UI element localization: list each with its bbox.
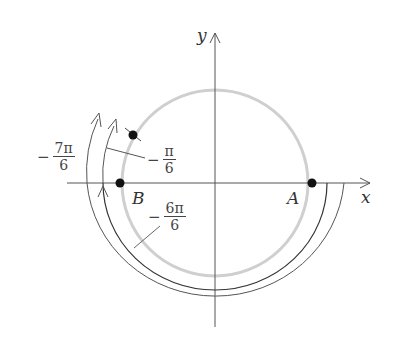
numerator: π (163, 143, 176, 160)
numerator: 7π (53, 140, 75, 157)
label-neg-6pi-6: − 6π 6 (148, 200, 186, 233)
y-axis-label: y (197, 27, 207, 44)
point-b-label: B (132, 190, 145, 207)
denominator: 6 (165, 160, 174, 176)
arc-neg-pi-6-arrowhead (108, 119, 117, 133)
unit-circle-diagram: y x A B − 7π 6 − π 6 − 6π 6 (0, 0, 397, 347)
minus-sign: − (37, 148, 50, 166)
numerator: 6π (164, 200, 186, 217)
point-a (308, 179, 317, 188)
point-a-label: A (287, 190, 299, 207)
point-p (129, 131, 138, 140)
label-neg-7pi-6: − 7π 6 (37, 140, 75, 173)
denominator: 6 (170, 217, 179, 233)
x-axis-label: x (361, 189, 371, 206)
diagram-canvas (0, 0, 397, 347)
label-neg-pi-6: − π 6 (147, 143, 176, 176)
minus-sign: − (148, 208, 161, 226)
minus-sign: − (147, 151, 160, 169)
denominator: 6 (59, 157, 68, 173)
arc-neg-pi-6 (103, 126, 114, 183)
point-b (116, 179, 125, 188)
